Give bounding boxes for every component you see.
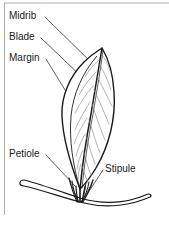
stem-cut-end (20, 180, 24, 186)
stem-right-tip (148, 194, 151, 197)
leaf-diagram-figure: Midrib Blade Margin Petiole Stipule (0, 0, 169, 228)
label-midrib: Midrib (9, 10, 36, 21)
label-stipule: Stipule (105, 163, 136, 174)
label-blade: Blade (9, 31, 35, 42)
label-margin: Margin (9, 52, 40, 63)
label-petiole: Petiole (9, 148, 40, 159)
